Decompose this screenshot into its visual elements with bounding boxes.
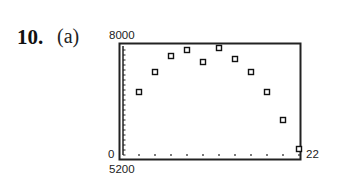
data-point bbox=[249, 70, 254, 75]
data-point bbox=[153, 70, 158, 75]
data-point bbox=[201, 60, 206, 65]
plot-frame bbox=[120, 44, 301, 160]
data-point bbox=[137, 90, 142, 95]
data-point bbox=[185, 48, 190, 53]
data-point bbox=[281, 118, 286, 123]
data-point bbox=[169, 54, 174, 59]
data-point bbox=[217, 46, 222, 51]
data-point bbox=[233, 57, 238, 62]
y-axis bbox=[123, 46, 126, 155]
x-axis-ticks bbox=[138, 154, 300, 156]
data-point bbox=[265, 90, 270, 95]
data-points bbox=[137, 46, 302, 152]
scatter-plot bbox=[0, 0, 346, 181]
data-point bbox=[297, 147, 302, 152]
